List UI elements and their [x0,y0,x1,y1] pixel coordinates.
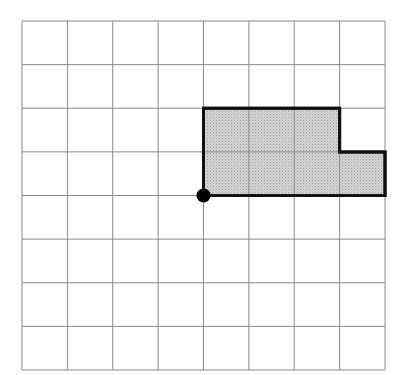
grid-diagram [0,0,393,375]
starting-point-dot [197,189,211,203]
